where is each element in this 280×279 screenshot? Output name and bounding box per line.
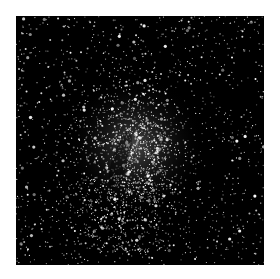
star-field-canvas: [16, 16, 264, 265]
star-field-image: [16, 16, 264, 265]
